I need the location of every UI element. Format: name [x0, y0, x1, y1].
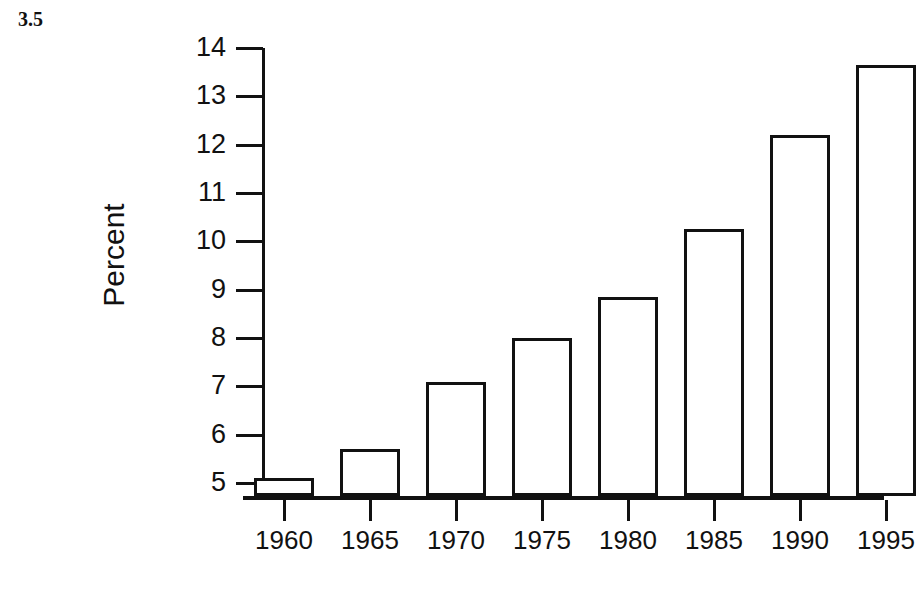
- y-axis-tick-label: 9: [170, 276, 226, 303]
- y-axis-tick: [236, 47, 263, 50]
- y-axis-tick-label: 11: [170, 179, 226, 206]
- bar: [426, 382, 486, 497]
- x-axis-tick-label: 1965: [325, 525, 415, 555]
- y-axis-tick: [236, 385, 263, 388]
- bar-chart: Percent 567891011121314 1960196519701975…: [0, 0, 918, 590]
- y-axis-tick-label: 8: [170, 324, 226, 351]
- y-axis-tick: [236, 95, 263, 98]
- bar: [254, 478, 314, 496]
- x-axis-tick-label: 1985: [669, 525, 759, 555]
- y-axis-tick-label: 7: [170, 372, 226, 399]
- bar: [856, 65, 916, 496]
- bar: [598, 297, 658, 496]
- x-axis-tick: [283, 500, 286, 521]
- x-axis-tick-label: 1990: [755, 525, 845, 555]
- bar: [512, 338, 572, 496]
- y-axis-tick: [236, 337, 263, 340]
- y-axis-tick: [236, 144, 263, 147]
- x-axis-tick: [455, 500, 458, 521]
- y-axis-tick: [236, 240, 263, 243]
- bar: [684, 229, 744, 496]
- x-axis-tick: [713, 500, 716, 521]
- x-axis-tick: [541, 500, 544, 521]
- x-axis-tick: [799, 500, 802, 521]
- bar: [770, 135, 830, 496]
- y-axis-spine: [262, 48, 265, 484]
- bar: [340, 449, 400, 496]
- x-axis-tick-label: 1970: [411, 525, 501, 555]
- x-axis-tick: [369, 500, 372, 521]
- x-axis-tick-label: 1960: [239, 525, 329, 555]
- y-axis-tick-label: 13: [170, 82, 226, 109]
- y-axis-tick-label: 6: [170, 421, 226, 448]
- x-axis-tick-label: 1975: [497, 525, 587, 555]
- y-axis-title: Percent: [97, 185, 131, 325]
- x-axis-tick: [627, 500, 630, 521]
- y-axis-tick-label: 10: [170, 227, 226, 254]
- x-axis-spine: [243, 496, 884, 500]
- y-axis-tick-label: 12: [170, 131, 226, 158]
- y-axis-tick-label: 14: [170, 34, 226, 61]
- x-axis-tick: [885, 500, 888, 521]
- y-axis-tick-label: 5: [170, 469, 226, 496]
- x-axis-tick-label: 1995: [841, 525, 918, 555]
- y-axis-tick: [236, 192, 263, 195]
- x-axis-tick-label: 1980: [583, 525, 673, 555]
- y-axis-tick: [236, 434, 263, 437]
- y-axis-tick: [236, 289, 263, 292]
